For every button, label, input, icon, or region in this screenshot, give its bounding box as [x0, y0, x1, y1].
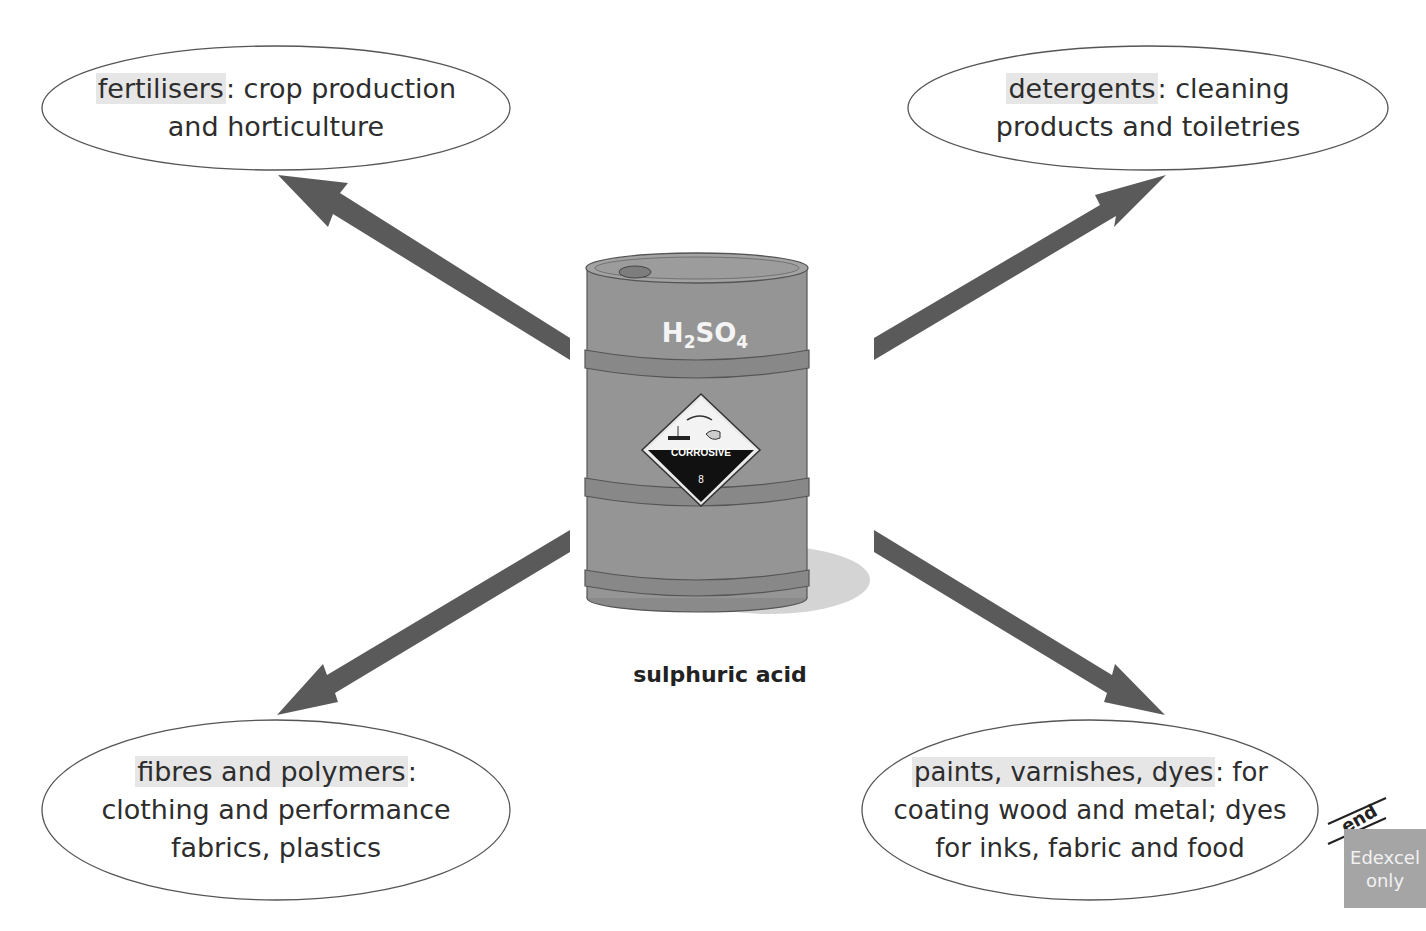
use-keyword: paints, varnishes, dyes	[912, 757, 1215, 787]
use-bubble-fibres: fibres and polymers: clothing and perfor…	[42, 720, 510, 900]
use-text: : crop production	[226, 73, 456, 104]
arrow-to-paints	[874, 530, 1165, 715]
use-bubble-fertilisers: fertilisers: crop production and horticu…	[42, 46, 510, 170]
arrow-to-detergents	[874, 175, 1166, 360]
cut-off-text-line	[0, 0, 1426, 6]
use-text: : for	[1215, 757, 1268, 787]
formula-sub-2: 2	[684, 332, 696, 352]
formula-label: H2SO4	[630, 318, 780, 352]
use-keyword: fertilisers	[96, 73, 226, 104]
hazard-text: CORROSIVE	[661, 447, 741, 458]
center-caption: sulphuric acid	[600, 662, 840, 687]
use-text: :	[408, 756, 417, 787]
use-text: fabrics, plastics	[171, 832, 381, 863]
use-keyword: detergents	[1006, 73, 1157, 104]
barrel-bung	[619, 266, 651, 278]
hazard-class-number: 8	[691, 474, 711, 485]
use-bubble-detergents: detergents: cleaning products and toilet…	[908, 46, 1388, 170]
formula-sub-4: 4	[736, 332, 748, 352]
use-text: clothing and performance	[101, 794, 450, 825]
arrow-to-fertilisers	[278, 175, 570, 360]
use-keyword: fibres and polymers	[135, 756, 408, 787]
use-bubble-paints: paints, varnishes, dyes: for coating woo…	[862, 720, 1318, 900]
badge-line-2: only	[1344, 869, 1426, 892]
use-text: products and toiletries	[996, 111, 1300, 142]
edexcel-only-badge: Edexcel only	[1344, 829, 1426, 908]
arrow-to-fibres	[277, 530, 570, 715]
use-text: for inks, fabric and food	[935, 833, 1245, 863]
use-text: coating wood and metal; dyes	[894, 795, 1287, 825]
formula-so: SO	[695, 318, 736, 348]
use-text: and horticulture	[168, 111, 384, 142]
formula-h: H	[662, 318, 684, 348]
use-text: : cleaning	[1158, 73, 1290, 104]
badge-line-1: Edexcel	[1344, 846, 1426, 869]
